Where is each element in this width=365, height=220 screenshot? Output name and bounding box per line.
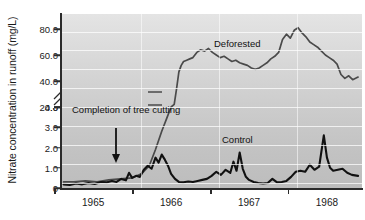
gridline xyxy=(62,126,362,127)
gridline xyxy=(62,183,362,184)
y-tick-mark xyxy=(54,80,61,82)
gridline xyxy=(62,50,362,51)
y-axis-line xyxy=(60,13,62,189)
nitrate-runoff-chart: Nitrate concentration in runoff (mg/L) 0… xyxy=(0,0,365,220)
y-tick-mark xyxy=(54,54,61,56)
x-tick-mark xyxy=(288,188,290,194)
annotation-completion-of-tree-cutting: Completion of tree cutting xyxy=(72,104,158,116)
gridline xyxy=(62,32,362,33)
y-tick-mark xyxy=(54,187,61,189)
annotation-deforested-text: Deforested xyxy=(214,38,260,49)
x-tick-label: 1966 xyxy=(160,197,182,208)
y-tick-label: 1.0 xyxy=(18,162,58,173)
x-tick-label: 1967 xyxy=(238,197,260,208)
x-tick-label: 1965 xyxy=(82,197,104,208)
x-tick-mark xyxy=(54,188,56,194)
x-axis-line xyxy=(60,188,363,190)
y-tick-label: 0 xyxy=(18,183,58,194)
gridline xyxy=(62,164,362,165)
y-tick-mark xyxy=(54,28,61,30)
y-tick-label: 2.0 xyxy=(18,142,58,153)
plot-area xyxy=(62,14,362,188)
y-tick-mark xyxy=(54,167,61,169)
annotation-control-text: Control xyxy=(222,134,253,145)
annotation-control: Control xyxy=(222,134,253,145)
y-tick-label: 20.0 xyxy=(18,102,58,113)
y-tick-mark xyxy=(54,127,61,129)
series-line-control xyxy=(64,135,359,185)
x-tick-mark xyxy=(132,188,134,194)
y-tick-label: 80.0 xyxy=(18,24,58,35)
gridline xyxy=(62,88,362,89)
vertical-gridline xyxy=(141,14,142,188)
annotation-deforested: Deforested xyxy=(214,38,260,49)
y-tick-label: 3.0 xyxy=(18,122,58,133)
y-tick-label: 40.0 xyxy=(18,76,58,87)
y-tick-label: 60.0 xyxy=(18,50,58,61)
y-axis-tick-labels: 01.02.03.04.020.040.060.080.0 xyxy=(16,0,58,220)
y-tick-mark xyxy=(54,147,61,149)
data-series-layer xyxy=(62,14,362,188)
x-tick-mark xyxy=(210,188,212,194)
gridline xyxy=(62,145,362,146)
gridline xyxy=(62,69,362,70)
x-tick-label: 1968 xyxy=(316,197,338,208)
y-tick-mark xyxy=(54,106,61,108)
annotation-cut-text: Completion of tree cutting xyxy=(72,104,180,115)
annotation-arrow-icon xyxy=(110,128,122,164)
vertical-gridline xyxy=(297,14,298,188)
